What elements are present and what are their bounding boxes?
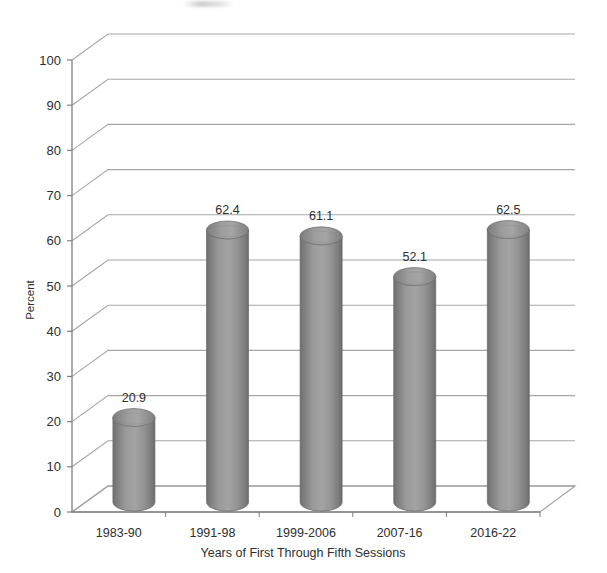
- y-tick-label: 0: [54, 505, 61, 520]
- y-tick-labels: 0102030405060708090100: [39, 53, 61, 520]
- grid-line: [72, 34, 575, 60]
- category-labels-group: 1983-901991-981999-20062007-162016-22: [96, 526, 516, 540]
- chart-container: 0102030405060708090100 20.962.461.152.16…: [0, 0, 607, 573]
- bar-value-label: 20.9: [122, 391, 146, 405]
- category-label: 2007-16: [377, 526, 423, 540]
- y-tick-label: 30: [47, 369, 61, 384]
- bar-value-label: 61.1: [309, 209, 333, 223]
- bar-body: [487, 230, 529, 512]
- y-tick-label: 80: [47, 143, 61, 158]
- category-label: 1999-2006: [276, 526, 336, 540]
- bar-body: [300, 236, 342, 511]
- bar-body: [207, 230, 249, 511]
- bar-top-cap: [300, 227, 342, 245]
- y-tick-label: 90: [47, 98, 61, 113]
- y-tick-label: 40: [47, 324, 61, 339]
- bar-top-cap: [394, 268, 436, 286]
- bar-body: [113, 418, 155, 512]
- y-tick-label: 100: [39, 53, 61, 68]
- bars-group: [113, 221, 529, 512]
- bar-cylinder: [300, 227, 342, 511]
- bar-cylinder: [207, 221, 249, 511]
- bar-top-cap: [207, 221, 249, 239]
- category-label: 2016-22: [470, 526, 516, 540]
- category-label: 1991-98: [189, 526, 235, 540]
- grid-line: [72, 124, 575, 150]
- bar-top-cap: [113, 409, 155, 427]
- x-axis-title: Years of First Through Fifth Sessions: [201, 546, 406, 560]
- y-tick-label: 10: [47, 459, 61, 474]
- bar-value-label: 62.4: [215, 203, 239, 217]
- bar-cylinder: [394, 268, 436, 512]
- grid-line: [72, 79, 575, 105]
- y-axis-title: Percent: [24, 279, 36, 319]
- y-tick-label: 70: [47, 188, 61, 203]
- bar-body: [394, 277, 436, 512]
- bar-cylinder: [113, 409, 155, 512]
- bar-top-cap: [487, 221, 529, 239]
- grid-line: [72, 170, 575, 196]
- bar-chart-3d: 0102030405060708090100 20.962.461.152.16…: [0, 0, 607, 573]
- y-tick-label: 60: [47, 233, 61, 248]
- y-tick-label: 20: [47, 414, 61, 429]
- bar-cylinder: [487, 221, 529, 512]
- y-tick-label: 50: [47, 279, 61, 294]
- category-label: 1983-90: [96, 526, 142, 540]
- bar-value-label: 52.1: [403, 250, 427, 264]
- bar-value-label: 62.5: [496, 203, 520, 217]
- scan-artifact: [183, 1, 235, 7]
